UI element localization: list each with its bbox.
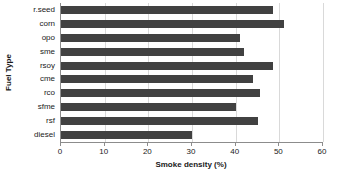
bar-row [61, 17, 322, 31]
x-axis-tick-label: 50 [263, 147, 293, 156]
bar-row [61, 45, 322, 59]
bar-row [61, 114, 322, 128]
x-axis-tick-label: 0 [45, 147, 75, 156]
y-axis-tick-label: diesel [14, 128, 58, 142]
bar-row [61, 73, 322, 87]
bar-row [61, 86, 322, 100]
bar-row [61, 128, 322, 142]
bar [61, 89, 260, 97]
y-axis-tick-label: r.seed [14, 3, 58, 17]
y-axis-tick-labels: r.seed corn opo sme rsoy cme rco sfme rs… [14, 3, 58, 142]
y-axis-tick-label: opo [14, 31, 58, 45]
x-axis-tick [191, 142, 192, 146]
bar-row [61, 100, 322, 114]
y-axis-tick-label: corn [14, 17, 58, 31]
bar [61, 117, 258, 125]
bar [61, 20, 284, 28]
plot-area [60, 3, 322, 142]
bar [61, 6, 273, 14]
bar [61, 48, 244, 56]
x-axis-title: Smoke density (%) [60, 160, 322, 169]
y-axis-tick-label: rco [14, 86, 58, 100]
x-axis-tick [104, 142, 105, 146]
x-axis-tick [278, 142, 279, 146]
bar-row [61, 59, 322, 73]
bar [61, 103, 236, 111]
x-axis-tick [322, 142, 323, 146]
x-axis-tick [60, 142, 61, 146]
bar-chart: Fuel Type r.seed corn opo sme rsoy cme r… [0, 0, 341, 175]
x-axis-tick-label: 20 [132, 147, 162, 156]
x-axis-tick-label: 40 [220, 147, 250, 156]
y-axis-tick-label: sme [14, 45, 58, 59]
x-axis-tick-label: 60 [307, 147, 337, 156]
bar-row [61, 31, 322, 45]
bar-row [61, 3, 322, 17]
y-axis-tick-label: sfme [14, 100, 58, 114]
y-axis-tick-label: rsf [14, 114, 58, 128]
bar-series [61, 3, 322, 142]
x-axis-tick-label: 10 [89, 147, 119, 156]
bar [61, 75, 253, 83]
bar [61, 62, 273, 70]
x-axis-tick-label: 30 [176, 147, 206, 156]
bar [61, 131, 192, 139]
x-axis-tick [235, 142, 236, 146]
y-axis-tick-label: cme [14, 73, 58, 87]
gridline [323, 3, 324, 142]
bar [61, 34, 240, 42]
y-axis-tick-label: rsoy [14, 59, 58, 73]
y-axis-title-label: Fuel Type [4, 54, 13, 91]
x-axis-tick [147, 142, 148, 146]
